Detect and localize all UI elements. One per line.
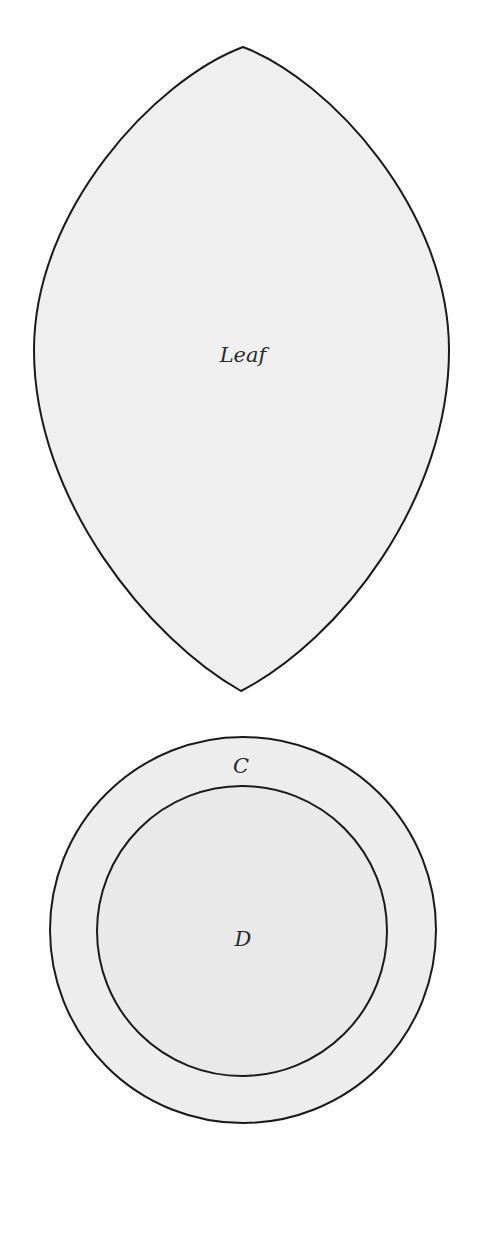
diagram-canvas: Leaf C D: [0, 0, 486, 1252]
circle-d-label: D: [234, 927, 252, 951]
leaf-shape: [34, 47, 449, 691]
leaf-label: Leaf: [219, 343, 270, 367]
circle-c-label: C: [233, 754, 249, 778]
